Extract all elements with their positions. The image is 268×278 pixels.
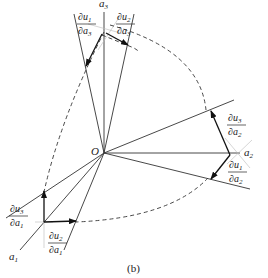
fraction-du3-da2: ∂u3 ∂a2 (227, 112, 246, 139)
origin-label: O (91, 145, 99, 157)
svg-text:∂a3: ∂a3 (78, 25, 92, 38)
fraction-du3-da1: ∂u3 ∂a1 (9, 203, 28, 230)
svg-text:∂u1: ∂u1 (229, 159, 242, 172)
axis-label-a1: a1 (9, 250, 18, 264)
arrow-du1-da3 (86, 34, 102, 66)
arrow-du1-da2 (211, 155, 230, 179)
deformed-line-a1-lower (64, 153, 104, 250)
arrow-du2-da1 (44, 221, 76, 222)
fraction-du2-da1: ∂u2 ∂a1 (48, 230, 67, 257)
axis-label-a3: a3 (99, 0, 109, 11)
svg-text:∂a1: ∂a1 (49, 244, 62, 257)
svg-text:∂u3: ∂u3 (228, 112, 242, 125)
axis-label-a2: a2 (244, 146, 254, 160)
deformation-diagram: a3 a2 a1 O ∂u1 ∂a3 ∂u2 ∂a3 ∂u3 ∂a2 ∂u1 ∂… (0, 0, 268, 278)
fraction-du1-da2: ∂u1 ∂a2 (228, 159, 247, 186)
svg-text:∂u2: ∂u2 (117, 11, 131, 24)
fraction-du1-da3: ∂u1 ∂a3 (77, 11, 96, 38)
dashed-arc-a3-a2 (110, 25, 206, 110)
svg-text:∂a3: ∂a3 (117, 25, 131, 38)
figure-caption: (b) (127, 262, 140, 275)
svg-text:∂a2: ∂a2 (228, 126, 242, 139)
dashed-arc-a2-a1 (76, 178, 208, 222)
svg-text:∂u2: ∂u2 (49, 230, 63, 243)
deformed-line-a2-upper (104, 100, 234, 153)
dashed-extension (102, 35, 140, 52)
svg-text:∂a1: ∂a1 (10, 217, 23, 230)
svg-text:∂u1: ∂u1 (78, 11, 91, 24)
